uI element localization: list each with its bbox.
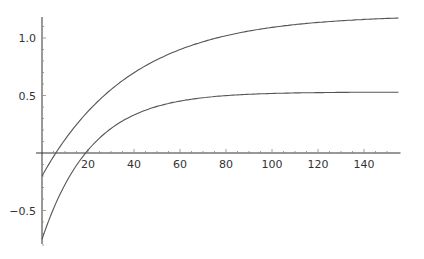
x-tick-label: 20 <box>81 158 95 171</box>
curves <box>42 18 399 239</box>
curve-upper-curve <box>42 18 399 176</box>
x-tick-label: 100 <box>262 158 283 171</box>
x-tick-label: 40 <box>127 158 141 171</box>
x-tick-label: 120 <box>308 158 329 171</box>
y-tick-label: −0.5 <box>9 205 36 218</box>
axes <box>36 17 401 244</box>
tick-labels: 20406080100120140−0.50.51.0 <box>9 32 374 218</box>
x-tick-label: 60 <box>173 158 187 171</box>
x-tick-label: 140 <box>354 158 375 171</box>
x-tick-label: 80 <box>219 158 233 171</box>
ticks <box>42 27 387 246</box>
line-chart: 20406080100120140−0.50.51.0 <box>0 0 424 259</box>
y-tick-label: 1.0 <box>19 32 37 45</box>
y-tick-label: 0.5 <box>19 90 37 103</box>
